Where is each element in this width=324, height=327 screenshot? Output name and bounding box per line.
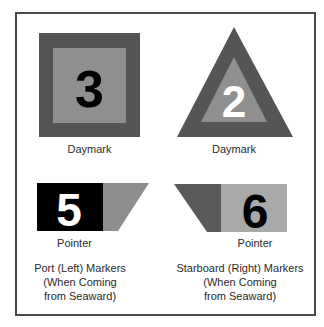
starboard-pointer: 6: [174, 184, 287, 238]
port-daymark-label: Daymark: [39, 143, 140, 156]
starboard-daymark-triangle: 2: [177, 27, 293, 137]
starboard-caption: Starboard (Right) Markers (When Coming f…: [170, 261, 310, 303]
port-pointer-number: 5: [56, 184, 82, 236]
starboard-caption-line-1: Starboard (Right) Markers: [170, 261, 310, 275]
starboard-pointer-label: Pointer: [210, 237, 300, 250]
port-daymark-square: 3: [39, 33, 140, 137]
port-pointer-arrow: [103, 183, 149, 231]
port-pointer-label: Pointer: [37, 237, 112, 250]
starboard-caption-line-2: (When Coming: [170, 275, 310, 289]
starboard-daymark-label: Daymark: [184, 143, 284, 156]
port-daymark-number: 3: [75, 60, 104, 118]
port-caption-line-1: Port (Left) Markers: [20, 261, 140, 275]
port-pointer: 5: [37, 183, 149, 236]
starboard-caption-line-3: from Seaward): [170, 289, 310, 303]
starboard-daymark-number: 2: [222, 77, 246, 126]
port-caption: Port (Left) Markers (When Coming from Se…: [20, 261, 140, 303]
port-caption-line-2: (When Coming: [20, 275, 140, 289]
port-caption-line-3: from Seaward): [20, 289, 140, 303]
starboard-pointer-number: 6: [242, 185, 269, 238]
starboard-pointer-arrow: [174, 184, 221, 232]
